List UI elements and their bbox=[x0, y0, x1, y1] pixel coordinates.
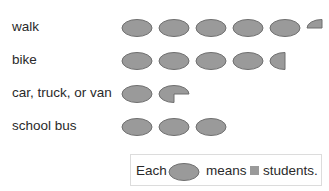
row-label: walk bbox=[12, 19, 39, 34]
row-label: bike bbox=[12, 52, 37, 67]
legend-students-text: students. bbox=[263, 163, 318, 178]
quarter-ellipse-icon bbox=[306, 18, 329, 38]
legend-means-text: means bbox=[206, 163, 247, 178]
row-school-bus: school bus bbox=[0, 117, 329, 137]
ellipse-icon bbox=[121, 51, 153, 71]
row-label: school bus bbox=[12, 118, 77, 133]
ellipse-icon bbox=[121, 18, 153, 38]
ellipse-icon bbox=[195, 51, 227, 71]
ellipse-icon bbox=[195, 18, 227, 38]
ellipse-icon bbox=[232, 51, 264, 71]
row-car-truck-van: car, truck, or van bbox=[0, 84, 329, 104]
three-quarter-ellipse-icon bbox=[158, 84, 190, 104]
ellipse-icon bbox=[195, 117, 227, 137]
legend-each-text: Each bbox=[136, 163, 167, 178]
legend-key: Each means students. bbox=[130, 154, 322, 186]
ellipse-icon bbox=[232, 18, 264, 38]
ellipse-icon bbox=[158, 18, 190, 38]
unknown-value-square-icon bbox=[250, 166, 259, 175]
ellipse-icon bbox=[269, 18, 301, 38]
ellipse-icon bbox=[121, 117, 153, 137]
ellipse-icon bbox=[168, 162, 200, 182]
row-walk: walk bbox=[0, 18, 329, 38]
ellipse-icon bbox=[158, 51, 190, 71]
row-label: car, truck, or van bbox=[12, 85, 112, 100]
row-bike: bike bbox=[0, 51, 329, 71]
half-ellipse-icon bbox=[269, 51, 301, 71]
ellipse-icon bbox=[158, 117, 190, 137]
ellipse-icon bbox=[121, 84, 153, 104]
